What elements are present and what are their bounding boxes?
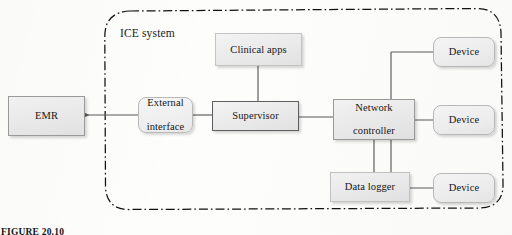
node-supervisor[interactable]: Supervisor <box>212 101 299 131</box>
node-device-1[interactable]: Device <box>433 37 495 67</box>
node-clinical-apps-label: Clinical apps <box>230 44 286 56</box>
node-network-controller[interactable]: Network controller <box>333 99 415 140</box>
node-external-interface[interactable]: External interface <box>138 97 193 133</box>
node-device-3[interactable]: Device <box>433 173 495 203</box>
node-network-controller-label: Network controller <box>353 102 395 137</box>
node-device-2[interactable]: Device <box>433 105 495 135</box>
node-data-logger-label: Data logger <box>345 181 395 193</box>
node-device-2-label: Device <box>449 114 479 126</box>
node-external-interface-label: External interface <box>147 97 185 132</box>
node-supervisor-label: Supervisor <box>232 110 279 122</box>
ice-system-label: ICE system <box>120 27 175 39</box>
figure-caption: FIGURE 20.10 <box>1 227 64 235</box>
node-emr[interactable]: EMR <box>8 96 85 136</box>
node-device-1-label: Device <box>449 46 479 58</box>
node-emr-label: EMR <box>35 110 58 122</box>
node-clinical-apps[interactable]: Clinical apps <box>215 33 302 66</box>
figure-caption-prefix: FIGURE 20.10 <box>1 227 64 235</box>
node-data-logger[interactable]: Data logger <box>330 172 410 202</box>
figure-canvas: ICE system <box>0 0 512 235</box>
node-device-3-label: Device <box>449 182 479 194</box>
